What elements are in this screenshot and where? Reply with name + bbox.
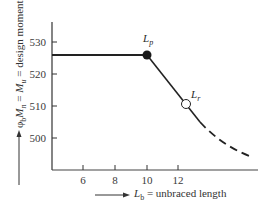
y-tick-510: 510 (30, 100, 47, 112)
chart-canvas: 530 520 510 500 6 8 10 12 Lp Lr (0, 0, 272, 212)
elastic-dashed-curve (200, 122, 252, 157)
y-axis-label: φbMn = Mu = design moment (13, 0, 28, 128)
lr-marker (182, 100, 191, 109)
y-arrowhead-icon (17, 130, 22, 137)
y-tick-500: 500 (30, 132, 47, 144)
x-axis-label: Lb = unbraced length (134, 187, 226, 202)
lr-label: Lr (190, 88, 201, 103)
lp-label: Lp (142, 32, 153, 47)
x-ticks (83, 165, 178, 170)
y-tick-530: 530 (30, 36, 47, 48)
y-ticks (52, 42, 57, 138)
y-tick-520: 520 (30, 68, 47, 80)
x-tick-6: 6 (80, 174, 86, 186)
lp-marker (143, 51, 152, 60)
x-tick-8: 8 (112, 174, 118, 186)
x-tick-12: 12 (173, 174, 184, 186)
x-arrowhead-icon (123, 193, 130, 198)
x-tick-10: 10 (142, 174, 154, 186)
